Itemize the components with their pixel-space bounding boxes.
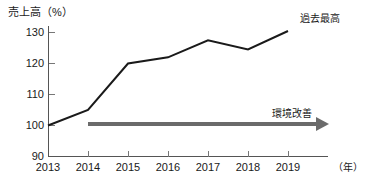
x-tick-label-2016: 2016 [156, 161, 180, 173]
x-tick-label-2014: 2014 [76, 161, 100, 173]
improvement-arrow-head [316, 117, 329, 131]
y-axis-title: 売上高（%） [8, 5, 73, 18]
x-axis-ticks [89, 151, 289, 157]
y-axis-ticks: 130 120 110 100 90 [26, 26, 55, 162]
y-tick-label-110: 110 [26, 88, 44, 100]
x-axis-unit-label: （年） [333, 161, 363, 173]
sales-line-chart: 売上高（%） 130 120 110 100 90 [0, 0, 372, 182]
x-tick-label-2013: 2013 [36, 161, 60, 173]
annotation-environment-improvement: 環境改善 [272, 107, 312, 119]
x-axis-labels: 2013 2014 2015 2016 2017 2018 2019 （年） [36, 161, 363, 173]
y-tick-label-100: 100 [26, 119, 44, 131]
x-tick-label-2018: 2018 [236, 161, 260, 173]
x-tick-label-2015: 2015 [116, 161, 140, 173]
annotation-record-high: 過去最高 [300, 12, 340, 24]
x-tick-label-2017: 2017 [196, 161, 220, 173]
chart-canvas: 売上高（%） 130 120 110 100 90 [0, 0, 372, 182]
y-tick-label-120: 120 [26, 57, 44, 69]
annotation-environment-improvement-arrow [88, 117, 329, 131]
x-tick-label-2019: 2019 [276, 161, 300, 173]
sales-series-line [48, 31, 288, 126]
y-tick-label-130: 130 [26, 26, 44, 38]
